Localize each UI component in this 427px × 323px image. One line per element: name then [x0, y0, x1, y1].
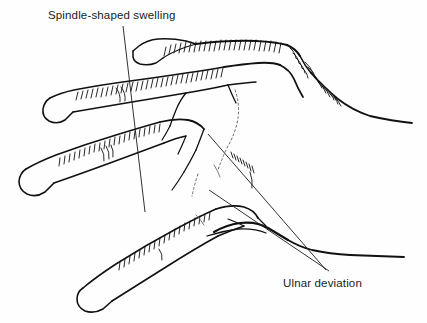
annotation-label-spindle-shaped-swelling: Spindle-shaped swelling: [48, 9, 175, 22]
annotation-label-ulnar-deviation: Ulnar deviation: [283, 277, 362, 290]
illustration-page: Spindle-shaped swelling Ulnar deviation: [0, 0, 427, 323]
hand-illustration: [0, 0, 427, 323]
